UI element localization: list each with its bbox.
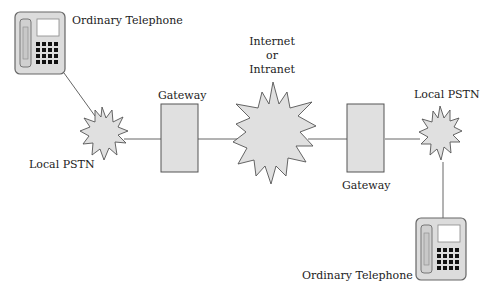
- internet-label-line1: Internet: [249, 35, 295, 48]
- pstn-left: Local PSTN: [29, 107, 128, 171]
- internet-label-line2: or: [266, 49, 279, 62]
- telephone-right: Ordinary Telephone: [302, 218, 466, 282]
- telephone-icon: [15, 12, 65, 74]
- gateway-box: [161, 104, 198, 172]
- starburst-cloud-icon: [233, 82, 316, 184]
- telephone-left: Ordinary Telephone: [15, 12, 183, 74]
- starburst-cloud-icon: [80, 107, 128, 160]
- telephone-icon: [416, 218, 466, 280]
- internet-cloud: Internet or Intranet: [233, 35, 316, 184]
- gateway-right: Gateway: [342, 104, 391, 192]
- voip-network-diagram: Ordinary Telephone Local PSTN Gateway In…: [0, 0, 487, 296]
- gateway-box: [347, 104, 384, 172]
- telephone-left-label: Ordinary Telephone: [72, 14, 183, 27]
- gateway-right-label: Gateway: [342, 179, 391, 192]
- starburst-cloud-icon: [419, 106, 462, 160]
- telephone-right-label: Ordinary Telephone: [302, 269, 413, 282]
- pstn-right: Local PSTN: [414, 88, 480, 160]
- gateway-left: Gateway: [158, 89, 207, 172]
- pstn-right-label: Local PSTN: [414, 88, 480, 101]
- gateway-left-label: Gateway: [158, 89, 207, 102]
- internet-label-line3: Intranet: [249, 63, 295, 76]
- pstn-left-label: Local PSTN: [29, 158, 95, 171]
